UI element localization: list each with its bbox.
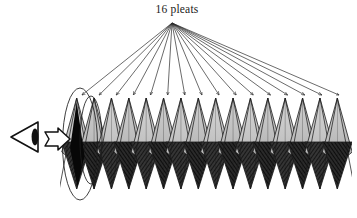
eye-pupil-icon xyxy=(32,129,39,146)
pleat-band xyxy=(59,98,354,189)
leader-arrow xyxy=(172,23,236,95)
page-title: 16 pleats xyxy=(156,3,199,16)
leader-arrow xyxy=(82,23,172,95)
figure-root: 16 pleats xyxy=(0,0,357,218)
leader-arrow xyxy=(172,23,185,95)
pleats-diagram-svg: 16 pleats xyxy=(0,0,357,218)
leader-arrow xyxy=(172,23,219,95)
leader-arrow xyxy=(172,23,305,95)
observer-group xyxy=(11,122,70,152)
leader-arrow xyxy=(168,23,172,95)
leader-arrow xyxy=(172,23,288,95)
leader-arrow xyxy=(133,23,172,95)
leader-arrow-fan xyxy=(82,23,339,95)
leader-arrow xyxy=(116,23,172,95)
leader-arrow xyxy=(172,23,322,95)
leader-arrow xyxy=(172,23,253,95)
